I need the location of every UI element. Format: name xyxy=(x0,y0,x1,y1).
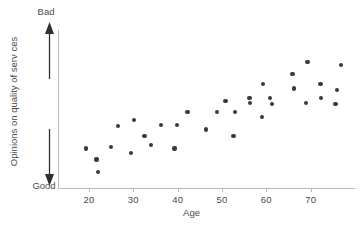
data-point xyxy=(339,63,343,67)
data-point xyxy=(335,88,339,92)
x-axis-tick-label: 60 xyxy=(253,194,279,205)
data-point xyxy=(231,134,235,138)
x-axis-tick xyxy=(89,188,90,192)
x-axis-tick xyxy=(178,188,179,192)
x-axis-tick-label: 50 xyxy=(209,194,235,205)
data-point xyxy=(260,115,264,119)
data-point xyxy=(96,170,100,174)
data-point xyxy=(223,99,227,103)
data-point xyxy=(215,110,219,114)
data-point xyxy=(247,96,251,100)
data-point xyxy=(261,82,265,86)
data-point xyxy=(84,146,88,150)
data-point xyxy=(204,127,208,131)
arrow-down-icon xyxy=(44,128,55,186)
data-point xyxy=(94,157,98,161)
data-point xyxy=(319,96,323,100)
y-axis-title: Opinions on quality of serv ces xyxy=(8,27,19,177)
data-point xyxy=(233,110,237,114)
y-axis-high-label: Bad xyxy=(24,6,68,17)
data-point xyxy=(132,118,136,122)
data-point xyxy=(185,110,189,114)
data-point xyxy=(268,96,272,100)
plot-area xyxy=(58,30,355,188)
data-point xyxy=(304,101,308,105)
data-point xyxy=(159,123,163,127)
data-point xyxy=(109,145,113,149)
scatter-plot-figure: Bad Good Opinions on quality of serv ces… xyxy=(0,0,363,227)
data-point xyxy=(149,143,153,147)
data-point xyxy=(172,146,176,150)
data-point xyxy=(292,86,296,90)
arrow-up-icon xyxy=(44,22,55,80)
data-point xyxy=(175,123,179,127)
x-axis-tick xyxy=(222,188,223,192)
x-axis-title: Age xyxy=(0,207,363,218)
x-axis-tick xyxy=(133,188,134,192)
x-axis-tick xyxy=(311,188,312,192)
data-point xyxy=(305,60,309,64)
data-point xyxy=(129,151,133,155)
x-axis-tick-label: 30 xyxy=(120,194,146,205)
x-axis-tick xyxy=(266,188,267,192)
data-point xyxy=(318,82,322,86)
x-axis-tick-label: 70 xyxy=(298,194,324,205)
data-point xyxy=(270,102,274,106)
x-axis-tick-label: 20 xyxy=(76,194,102,205)
data-point xyxy=(142,134,146,138)
data-point xyxy=(116,124,120,128)
x-axis-tick-label: 40 xyxy=(165,194,191,205)
data-point xyxy=(290,72,294,76)
data-point xyxy=(248,101,252,105)
data-point xyxy=(333,102,337,106)
